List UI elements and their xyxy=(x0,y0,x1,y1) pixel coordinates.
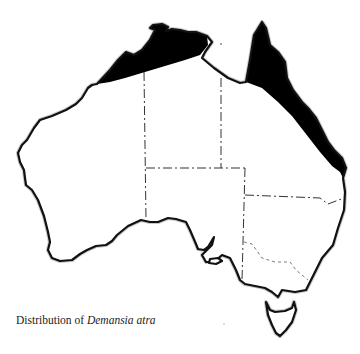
australia-distribution-map xyxy=(0,0,360,354)
figure-caption: Distribution of Demansia atra xyxy=(16,314,156,326)
caption-prefix: Distribution of xyxy=(16,314,87,326)
kangaroo-island xyxy=(209,258,222,264)
speck xyxy=(220,43,222,45)
caption-species: Demansia atra xyxy=(87,314,156,326)
speck xyxy=(223,323,224,324)
mainland xyxy=(18,22,346,297)
